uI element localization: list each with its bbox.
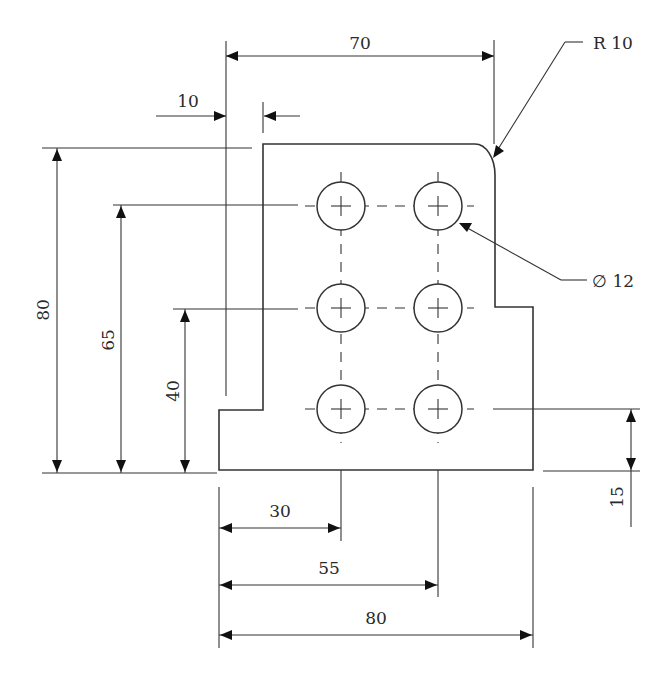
dimension-55: 55 xyxy=(219,558,438,590)
dimension-label-40: 40 xyxy=(163,380,183,402)
hole-r3-c1 xyxy=(317,385,365,433)
dimension-30: 30 xyxy=(219,501,341,533)
engineering-drawing: 70 10 80 65 40 15 30 xyxy=(0,0,670,683)
leader-hole-diameter: ∅ 12 xyxy=(459,223,634,291)
part-outline xyxy=(219,144,533,470)
holes xyxy=(317,182,462,433)
dimension-label-80-width: 80 xyxy=(365,608,387,628)
hole-r2-c1 xyxy=(317,284,365,332)
dimension-height-80: 80 xyxy=(33,148,62,473)
dimension-40: 40 xyxy=(163,309,190,473)
hole-r1-c2 xyxy=(414,182,462,230)
hole-r2-c2 xyxy=(414,284,462,332)
hole-diameter-label: ∅ 12 xyxy=(592,271,634,291)
dimension-width-80: 80 xyxy=(219,608,533,640)
fillet-radius-label: R 10 xyxy=(593,33,633,53)
dimension-70: 70 xyxy=(226,33,494,61)
dimension-label-80-height: 80 xyxy=(33,299,53,321)
dimension-15: 15 xyxy=(607,409,636,527)
leader-fillet-radius: R 10 xyxy=(493,33,633,158)
dimension-label-65: 65 xyxy=(98,329,118,351)
dimension-label-15: 15 xyxy=(607,486,627,508)
hole-r1-c1 xyxy=(317,182,365,230)
dimension-10: 10 xyxy=(156,91,300,121)
dimension-label-55: 55 xyxy=(318,558,340,578)
dimension-label-70: 70 xyxy=(349,33,371,53)
dimension-label-10: 10 xyxy=(177,91,199,111)
hole-r3-c2 xyxy=(414,385,462,433)
dimension-65: 65 xyxy=(98,205,126,473)
dimension-label-30: 30 xyxy=(269,501,291,521)
